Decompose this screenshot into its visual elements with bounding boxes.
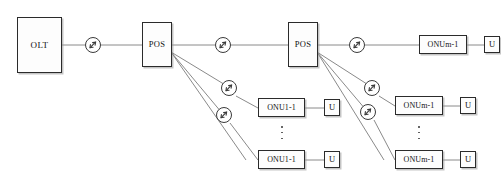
pos-right-node[interactable]: POS [288, 22, 318, 67]
u-right-bottom-label: U [465, 155, 471, 164]
vertical-ellipsis-icon [416, 126, 422, 139]
fiber-splice-icon[interactable] [216, 107, 232, 123]
pos-left-label: POS [149, 40, 166, 49]
onu-right-bottom-node[interactable]: ONUm-1 [395, 150, 443, 169]
u-right-mid-node[interactable]: U [460, 97, 476, 114]
u-right-top-label: U [489, 40, 495, 49]
fan-right-1 [317, 52, 370, 86]
fiber-splice-icon[interactable] [215, 37, 231, 53]
onu-right-top-node[interactable]: ONUm-1 [419, 35, 467, 54]
onu-right-top-label: ONUm-1 [428, 41, 459, 49]
link-splice4-onu1mid [236, 96, 258, 108]
vertical-ellipsis-icon [279, 126, 285, 139]
link-splice6-onummid [379, 96, 395, 106]
onu-left-mid-node[interactable]: ONU1-1 [258, 98, 305, 117]
onu-left-bottom-label: ONU1-1 [267, 156, 296, 164]
link-splice5-onu1bottom [230, 123, 258, 160]
pon-topology-diagram: OLT POS POS ONUm-1 U ONU1-1 U ONU1-1 U O… [0, 0, 501, 182]
onu-left-bottom-node[interactable]: ONU1-1 [258, 150, 305, 169]
olt-node[interactable]: OLT [17, 17, 62, 73]
onu-right-mid-label: ONUm-1 [404, 102, 435, 110]
u-right-top-node[interactable]: U [484, 36, 500, 53]
u-left-mid-label: U [329, 103, 335, 112]
u-right-bottom-node[interactable]: U [460, 151, 476, 168]
u-right-mid-label: U [465, 101, 471, 110]
pos-left-node[interactable]: POS [142, 22, 172, 67]
fan-left-3 [171, 52, 246, 160]
fiber-splice-icon[interactable] [349, 37, 365, 53]
onu-right-bottom-label: ONUm-1 [404, 156, 435, 164]
fiber-splice-icon[interactable] [364, 80, 380, 96]
pos-right-label: POS [295, 40, 312, 49]
fan-left-1 [171, 52, 227, 86]
onu-left-mid-label: ONU1-1 [267, 104, 296, 112]
fiber-splice-icon[interactable] [221, 80, 237, 96]
u-left-bottom-node[interactable]: U [324, 151, 340, 168]
fiber-splice-icon[interactable] [85, 37, 101, 53]
u-left-mid-node[interactable]: U [324, 99, 340, 116]
u-left-bottom-label: U [329, 155, 335, 164]
olt-label: OLT [31, 41, 49, 50]
fan-left-2 [171, 52, 222, 113]
link-splice7-onumbottom [374, 120, 395, 160]
fiber-splice-icon[interactable] [360, 104, 376, 120]
onu-right-mid-node[interactable]: ONUm-1 [395, 96, 443, 115]
